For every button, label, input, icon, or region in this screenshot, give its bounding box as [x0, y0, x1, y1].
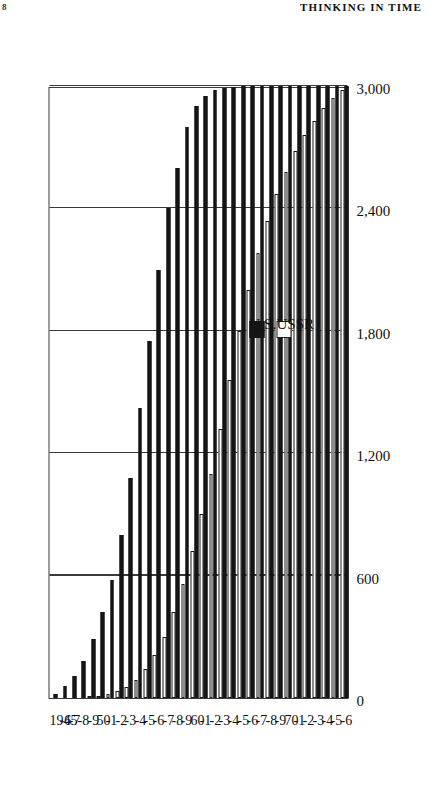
- value-tick-label: 1,800: [357, 326, 391, 343]
- gridline: [50, 85, 348, 86]
- bar-group: [340, 88, 349, 698]
- year-tick-label: -6: [340, 713, 352, 729]
- bar-group: [153, 88, 162, 698]
- bar-group: [96, 88, 105, 698]
- bar-group: [256, 88, 265, 698]
- bar-group: [200, 88, 209, 698]
- bar-us: [326, 86, 330, 698]
- value-tick-label: 3,000: [357, 81, 391, 98]
- bar-group: [87, 88, 96, 698]
- bar-us: [241, 86, 245, 698]
- bar-group: [134, 88, 143, 698]
- bar-us: [110, 580, 114, 698]
- bar-us: [288, 86, 292, 698]
- bar-us: [213, 90, 217, 698]
- bar-group: [68, 88, 77, 698]
- bar-us: [63, 686, 67, 698]
- bar-group: [143, 88, 152, 698]
- value-tick-label: 1,200: [357, 448, 391, 465]
- legend-label-us: U.S.: [250, 316, 277, 333]
- bar-us: [223, 88, 227, 698]
- bar-group: [293, 88, 302, 698]
- bar-group: [303, 88, 312, 698]
- bar-group: [106, 88, 115, 698]
- bar-group: [218, 88, 227, 698]
- bar-us: [194, 106, 198, 698]
- bar-group: [237, 88, 246, 698]
- bar-us: [298, 86, 302, 698]
- bar-us: [260, 86, 264, 698]
- running-head: THINKING IN TIME: [300, 1, 422, 13]
- bar-us: [129, 478, 133, 698]
- bar-group: [209, 88, 218, 698]
- bar-us: [119, 535, 123, 698]
- bar-us: [204, 96, 208, 698]
- bar-group: [162, 88, 171, 698]
- bar-group: [228, 88, 237, 698]
- bar-group: [312, 88, 321, 698]
- bar-us: [232, 87, 236, 698]
- bar-group: [125, 88, 134, 698]
- bar-us: [54, 694, 58, 698]
- bar-group: [59, 88, 68, 698]
- bar-us: [185, 127, 189, 698]
- value-tick-label: 0: [357, 693, 365, 710]
- bar-group: [331, 88, 340, 698]
- bar-us: [73, 676, 77, 698]
- bar-us: [91, 639, 95, 698]
- bar-us: [148, 341, 152, 698]
- chart-rotated-container: U.S. USSR 06001,2001,8002,4003,000 1945-…: [43, 57, 388, 757]
- bar-us: [101, 612, 105, 698]
- value-tick-label: 600: [357, 571, 380, 588]
- bar-us: [251, 86, 255, 698]
- bar-group: [171, 88, 180, 698]
- bar-us: [316, 86, 320, 698]
- bar-group: [275, 88, 284, 698]
- bar-group: [181, 88, 190, 698]
- bars-layer: [50, 88, 348, 698]
- bar-us: [344, 86, 348, 698]
- bar-group: [321, 88, 330, 698]
- value-tick-label: 2,400: [357, 203, 391, 220]
- bar-us: [335, 86, 339, 698]
- bar-us: [157, 270, 161, 698]
- bar-us: [166, 208, 170, 698]
- bar-group: [115, 88, 124, 698]
- bar-us: [269, 86, 273, 698]
- bar-group: [265, 88, 274, 698]
- legend-label-ussr: USSR: [277, 316, 315, 333]
- bar-group: [190, 88, 199, 698]
- bar-group: [246, 88, 255, 698]
- bar-us: [176, 168, 180, 698]
- bar-group: [284, 88, 293, 698]
- page-number: 8: [2, 1, 11, 13]
- bar-us: [82, 661, 86, 698]
- bar-group: [50, 88, 59, 698]
- bar-us: [307, 86, 311, 698]
- bar-us: [279, 86, 283, 698]
- plot-frame: U.S. USSR: [49, 87, 349, 699]
- figure-bar-chart: U.S. USSR 06001,2001,8002,4003,000 1945-…: [0, 18, 430, 796]
- bar-group: [78, 88, 87, 698]
- bar-us: [138, 408, 142, 698]
